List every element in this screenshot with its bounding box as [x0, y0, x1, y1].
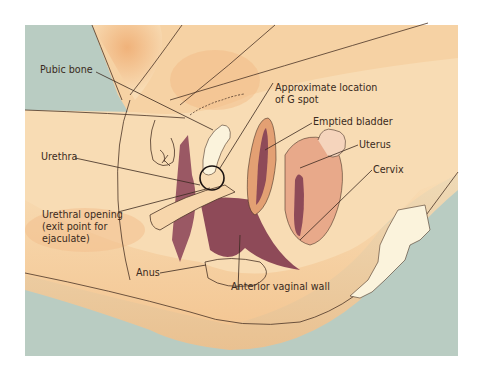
label-urethral-opening-line2: (exit point for — [42, 221, 107, 232]
label-urethral-opening-line1: Urethral opening — [42, 209, 123, 220]
label-g-spot-line1: Approximate location — [275, 82, 377, 93]
label-pubic-bone: Pubic bone — [40, 64, 93, 75]
label-g-spot-line2: of G spot — [275, 94, 319, 105]
label-anterior-vaginal-wall: Anterior vaginal wall — [231, 281, 330, 292]
label-anus: Anus — [136, 267, 160, 278]
label-urethral-opening-line3: ejaculate) — [42, 233, 90, 244]
label-emptied-bladder: Emptied bladder — [313, 116, 393, 127]
label-cervix: Cervix — [373, 164, 404, 175]
label-uterus: Uterus — [359, 139, 391, 150]
anatomy-diagram: Pubic bone Approximate location of G spo… — [0, 0, 478, 369]
label-urethra: Urethra — [41, 151, 77, 162]
